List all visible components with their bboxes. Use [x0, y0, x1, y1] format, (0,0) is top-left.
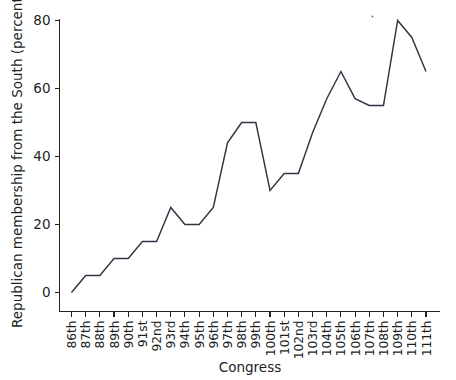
y-tick-label-40: 40 — [33, 148, 50, 164]
x-tick-label-110th: 110th — [405, 321, 419, 357]
y-tick-label-60: 60 — [33, 80, 50, 96]
y-axis-title: Republican membership from the South (pe… — [9, 0, 25, 328]
x-tick-label-86th: 86th — [65, 321, 79, 349]
x-axis-tick-labels: 86th87th88th89th90th91st92nd93rd94th95th… — [65, 320, 434, 359]
x-tick-label-91st: 91st — [136, 320, 150, 347]
chart-figure: 020406080 86th87th88th89th90th91st92nd93… — [0, 0, 456, 380]
x-tick-label-89th: 89th — [108, 321, 122, 349]
y-tick-label-80: 80 — [33, 12, 50, 28]
x-tick-label-98th: 98th — [235, 321, 249, 349]
x-tick-label-99th: 99th — [249, 321, 263, 349]
x-tick-label-87th: 87th — [79, 321, 93, 349]
y-tick-label-0: 0 — [42, 284, 51, 300]
x-tick-label-101st: 101st — [278, 320, 292, 355]
x-tick-label-107th: 107th — [363, 321, 377, 357]
x-tick-label-105th: 105th — [334, 321, 348, 357]
x-tick-label-95th: 95th — [193, 321, 207, 349]
x-axis-ticks — [72, 312, 427, 317]
x-axis-title: Congress — [219, 359, 281, 375]
axes-group — [60, 19, 441, 312]
x-tick-label-100th: 100th — [264, 321, 278, 357]
x-tick-label-94th: 94th — [178, 321, 192, 349]
x-tick-label-92nd: 92nd — [150, 321, 164, 352]
line-chart-plot: 020406080 86th87th88th89th90th91st92nd93… — [0, 0, 456, 380]
x-tick-label-93rd: 93rd — [164, 321, 178, 349]
x-tick-label-97th: 97th — [221, 321, 235, 349]
x-tick-label-111th: 111th — [420, 321, 434, 357]
x-tick-label-102nd: 102nd — [292, 321, 306, 360]
x-tick-label-96th: 96th — [207, 321, 221, 349]
x-tick-label-108th: 108th — [377, 321, 391, 357]
x-tick-label-88th: 88th — [93, 321, 107, 349]
x-tick-label-106th: 106th — [349, 321, 363, 357]
x-tick-label-104th: 104th — [320, 321, 334, 357]
x-tick-label-90th: 90th — [122, 321, 136, 349]
y-axis-tick-labels: 020406080 — [33, 12, 50, 300]
x-tick-label-109th: 109th — [391, 321, 405, 357]
image-speck-artifact — [372, 16, 374, 18]
y-axis-ticks — [55, 21, 60, 293]
data-series-line — [72, 21, 427, 293]
x-tick-label-103rd: 103rd — [306, 321, 320, 357]
y-tick-label-20: 20 — [33, 216, 50, 232]
